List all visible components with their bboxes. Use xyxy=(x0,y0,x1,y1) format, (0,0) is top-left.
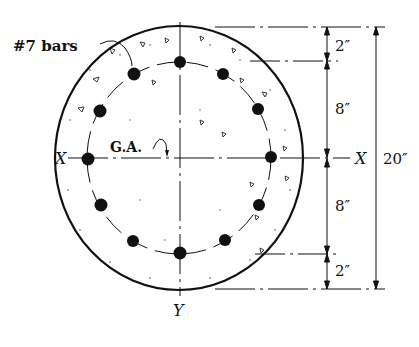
rebar xyxy=(82,153,95,166)
x-axis-label-left: X xyxy=(53,149,67,168)
rebar xyxy=(127,235,139,247)
dim-bottom-cover: 2″ xyxy=(335,262,351,280)
dim-upper-half: 8″ xyxy=(335,100,351,118)
ga-leader xyxy=(153,139,167,155)
x-axis-label-right: X xyxy=(353,149,367,168)
rebar xyxy=(128,68,141,81)
dim-overall: 20″ xyxy=(383,150,408,168)
gravity-axis-label: G.A. xyxy=(110,139,142,155)
rebar xyxy=(219,234,231,246)
column-section-diagram: #7 bars G.A. X X Y 2″ 8″ 8″ 2″ 20″ xyxy=(0,0,419,347)
rebar xyxy=(174,247,187,260)
rebar xyxy=(94,105,107,118)
rebar xyxy=(174,56,186,68)
y-axis-label: Y xyxy=(173,301,185,320)
rebar xyxy=(95,199,108,212)
rebar xyxy=(265,151,277,163)
ga-arrowhead xyxy=(165,150,169,157)
bars-label: #7 bars xyxy=(13,37,78,55)
rebar xyxy=(253,199,265,211)
rebar xyxy=(217,68,229,80)
dim-lower-half: 8″ xyxy=(335,197,351,215)
rebar xyxy=(252,103,264,115)
dim-top-cover: 2″ xyxy=(335,37,351,55)
concrete-texture xyxy=(67,44,291,279)
dimension-lines xyxy=(325,27,379,289)
